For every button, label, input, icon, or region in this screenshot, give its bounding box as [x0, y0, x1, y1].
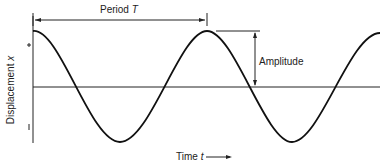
- period-arrow-right-icon: [199, 18, 205, 22]
- amplitude-arrow-up-icon: [253, 32, 257, 38]
- amplitude-label: Amplitude: [259, 56, 304, 67]
- period-arrow-left-icon: [35, 18, 41, 22]
- amplitude-arrow-down-icon: [253, 80, 257, 86]
- period-label: Period T: [100, 4, 139, 15]
- x-axis-label: Time t: [176, 151, 205, 162]
- wave-diagram: Period T Amplitude Displacement x Time t: [0, 0, 387, 164]
- y-axis-label: Displacement x: [5, 55, 16, 124]
- time-arrow-icon: [226, 155, 232, 159]
- cosine-wave: [33, 31, 380, 142]
